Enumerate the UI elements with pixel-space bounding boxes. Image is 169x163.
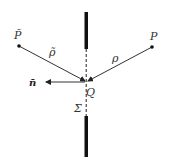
screen-lower — [85, 116, 89, 157]
label-aperture-surface: Σ — [73, 102, 82, 115]
label-source-distance: ρ̃ — [48, 46, 56, 59]
label-normal: n̄ — [29, 77, 36, 88]
observation-point-dot — [150, 45, 154, 49]
label-observation-point: P — [149, 30, 158, 43]
source-point-dot — [17, 44, 21, 48]
label-observation-distance: ρ — [111, 52, 119, 65]
diffraction-diagram: P̃ P ρ̃ ρ n̄ Q Σ — [0, 0, 169, 163]
ray-observation-to-q — [88, 47, 152, 81]
label-source-point: P̃ — [13, 29, 22, 42]
screen-upper — [85, 12, 89, 49]
label-aperture-point: Q — [86, 86, 95, 99]
